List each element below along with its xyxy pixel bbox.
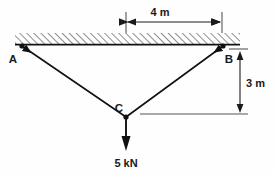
dimension-label-height: 3 m <box>246 77 265 89</box>
nodes-group: A B C <box>9 43 233 119</box>
dimension-span-4m: 4 m <box>126 6 222 33</box>
node-dot-b[interactable] <box>220 43 225 48</box>
dimension-arrowhead-top <box>237 51 244 60</box>
dimension-height-3m: 3 m <box>140 49 265 114</box>
node-label-c: C <box>115 102 123 114</box>
hatch-band-icon <box>15 33 240 44</box>
ceiling-support <box>15 33 240 45</box>
member-AC[interactable] <box>22 46 126 117</box>
dimension-label-span: 4 m <box>151 6 170 18</box>
diagram-canvas: 4 m A B C 3 m <box>0 0 275 174</box>
load-label: 5 kN <box>114 157 137 169</box>
node-label-b: B <box>225 53 233 65</box>
dimension-arrowhead-left <box>127 19 136 26</box>
truss-diagram: 4 m A B C 3 m <box>0 0 275 174</box>
node-label-a: A <box>9 53 17 65</box>
angle-markers <box>22 47 223 53</box>
node-dot-a[interactable] <box>19 43 24 48</box>
applied-load-c: 5 kN <box>114 117 137 169</box>
dimension-arrowhead-right <box>212 19 221 26</box>
load-arrowhead-icon <box>122 136 131 151</box>
member-BC[interactable] <box>126 46 223 117</box>
dimension-arrowhead-bottom <box>237 104 244 113</box>
